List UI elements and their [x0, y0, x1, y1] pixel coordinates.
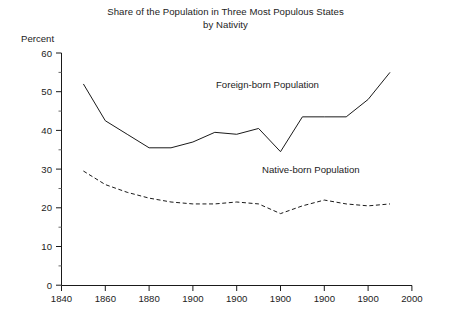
y-tick-label: 30 — [41, 164, 52, 175]
x-tick-label: 1880 — [138, 293, 159, 304]
x-tick-label: 1900 — [226, 293, 247, 304]
series-label-foreign-born: Foreign-born Population — [216, 79, 319, 90]
y-tick-label: 10 — [41, 241, 52, 252]
y-tick-label: 50 — [41, 86, 52, 97]
x-tick-label: 1840 — [51, 293, 72, 304]
y-tick-label: 0 — [47, 280, 52, 291]
x-tick-label: 1900 — [182, 293, 203, 304]
series-label-native-born: Native-born Population — [262, 164, 360, 175]
x-tick-label: 1900 — [270, 293, 291, 304]
x-tick-label: 2000 — [401, 293, 422, 304]
y-axis-tick-labels: 60 50 40 30 20 10 0 — [41, 48, 52, 291]
y-tick-label: 40 — [41, 125, 52, 136]
chart-container: Share of the Population in Three Most Po… — [0, 0, 451, 312]
y-axis-major-ticks — [56, 53, 62, 285]
y-tick-label: 60 — [41, 48, 52, 59]
chart-plot-area: 60 50 40 30 20 10 0 1840 1860 1880 1900 — [0, 0, 451, 312]
y-tick-label: 20 — [41, 202, 52, 213]
x-axis-ticks — [62, 286, 412, 292]
x-tick-label: 1900 — [357, 293, 378, 304]
x-tick-label: 1900 — [314, 293, 335, 304]
x-tick-label: 1860 — [95, 293, 116, 304]
x-axis-tick-labels: 1840 1860 1880 1900 1900 1900 1900 1900 … — [51, 293, 423, 304]
series-line-native-born — [83, 171, 390, 214]
